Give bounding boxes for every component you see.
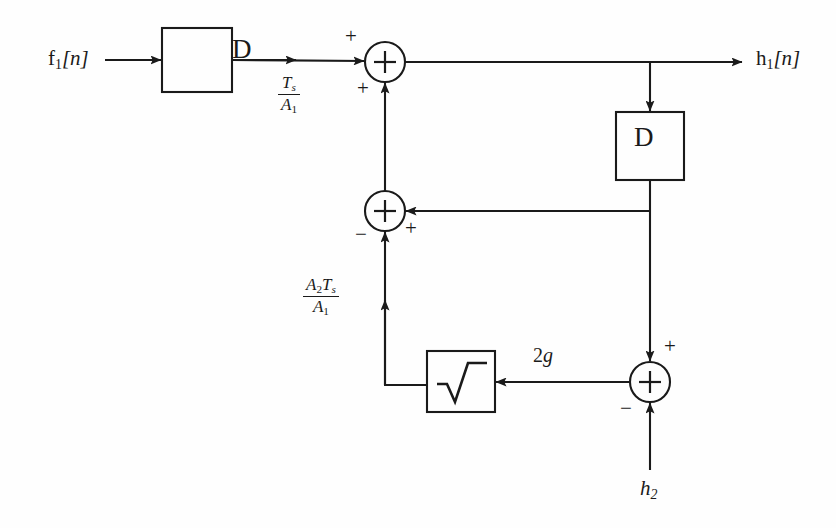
- output-signal-label: h1[n]: [756, 48, 800, 72]
- input-signal-2-label: h2: [640, 478, 657, 502]
- gain-ts-over-a1-label: Ts A1: [278, 74, 300, 116]
- sqrt-radical-icon: [437, 363, 487, 402]
- adder-bottom-sign-top: +: [664, 336, 676, 357]
- adder-middle-sign-horizontal: +: [405, 218, 417, 239]
- block-delay-1-label: D: [232, 36, 252, 63]
- block-diagram-canvas: f1[n] D D h1[n] h2 Ts A1 A2Ts A1 2g + + …: [0, 0, 836, 528]
- adder-bottom-sign-bottom: −: [620, 398, 632, 419]
- block-delay-1: [162, 28, 232, 92]
- adder-top-sign-vertical: +: [357, 78, 369, 99]
- gain-2g-label: 2g: [533, 345, 553, 365]
- input-signal-1-label: f1[n]: [48, 48, 89, 72]
- gain-a2ts-over-a1-label: A2Ts A1: [303, 276, 339, 318]
- diagram-vector-layer: [0, 0, 836, 528]
- adder-middle-sign-vertical: −: [355, 224, 367, 245]
- block-delay-2-label: D: [634, 124, 654, 151]
- adder-top-sign-horizontal: +: [345, 26, 357, 47]
